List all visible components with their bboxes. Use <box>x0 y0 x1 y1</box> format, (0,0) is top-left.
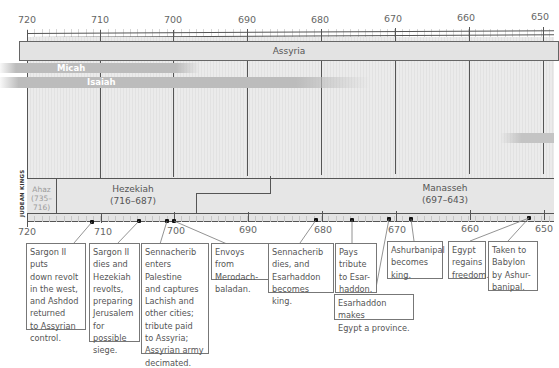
event-box-sennacherib-dies: Sennacherib dies, and Esarhaddon becomes… <box>268 243 334 293</box>
event-box-sennacherib-enters: Sennacherib enters Palestine and capture… <box>141 243 209 354</box>
event-box-egypt-freedom: Egypt regains freedom. <box>448 241 486 279</box>
event-box-pays-tribute: Pays tribute to Esar- haddon. <box>335 243 377 293</box>
event-box-egypt-province: Esarhaddon makes Egypt a province. <box>334 294 414 320</box>
event-box-sargon-revolt: Sargon II puts down revolt in the west, … <box>26 243 86 330</box>
event-box-taken-to-babylon: Taken to Babylon by Ashur- banipal. <box>488 241 538 291</box>
event-box-sargon-dies: Sargon II dies and Hezekiah revolts, pre… <box>89 243 140 342</box>
event-box-ashurbanipal-king: Ashurbanipal becomes king. <box>387 241 443 279</box>
event-box-envoys: Envoys from Merodach- baladan. <box>211 243 269 280</box>
